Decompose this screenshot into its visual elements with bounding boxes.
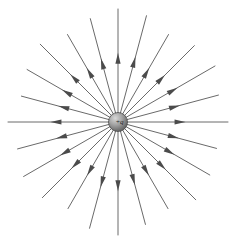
charge-sphere (109, 113, 128, 132)
point-charge-group: +q (109, 113, 128, 132)
field-line-diagram: +q (0, 0, 236, 241)
electric-field-figure: +q (0, 0, 236, 241)
